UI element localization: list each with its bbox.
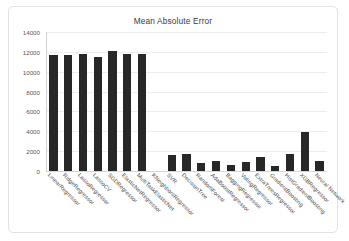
bar-linearregressor (49, 55, 57, 171)
bar-extratreesregressor (256, 157, 264, 171)
bar-lassocv (94, 57, 102, 171)
plot-area (46, 32, 327, 171)
bar-histgradientboosting (286, 154, 294, 171)
y-axis-tick-14000: 14000 (23, 29, 40, 36)
y-axis-tick-labels: 02000400060008000100001200014000 (9, 32, 44, 171)
y-axis-tick-12000: 12000 (23, 48, 40, 55)
y-axis-tick-2000: 2000 (26, 148, 40, 155)
bar-series (46, 32, 327, 171)
y-axis-tick-0: 0 (37, 168, 40, 175)
bar-xgbregressor (301, 132, 309, 171)
bar-sgdregressor (108, 51, 116, 171)
x-axis-tick-labels: LinearRegressorRidgeRegressorLassoRegres… (46, 172, 327, 241)
bar-adaboostregressor (212, 161, 220, 171)
y-axis-tick-4000: 4000 (26, 128, 40, 135)
bar-gradientboosting (271, 166, 279, 171)
bar-randomforest (197, 163, 205, 171)
bar-neural-network (315, 161, 323, 171)
bar-multitaskelasticnet (138, 54, 146, 171)
bar-decisiontree (182, 154, 190, 171)
bar-lassoregressor (79, 54, 87, 171)
bar-baggingregressor (227, 165, 235, 171)
bar-svr (168, 155, 176, 171)
y-axis-tick-6000: 6000 (26, 108, 40, 115)
bar-votingregressor (242, 162, 250, 171)
y-axis-tick-8000: 8000 (26, 88, 40, 95)
bar-ridgeregressor (64, 55, 72, 171)
chart-container: Mean Absolute Error 02000400060008000100… (8, 6, 338, 233)
bar-elasticnetregressor (123, 54, 131, 171)
y-axis-tick-10000: 10000 (23, 68, 40, 75)
chart-title: Mean Absolute Error (9, 16, 337, 26)
x-axis-label-svr: SVR (165, 172, 178, 185)
